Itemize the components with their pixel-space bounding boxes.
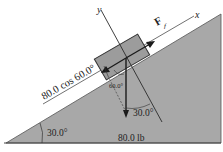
diagram-canvas: y x F f 80.0 cos 60.0° 60.0° 30.0° 30.0°… (0, 0, 223, 152)
angle-30-weight-label: 30.0° (133, 108, 154, 118)
friction-force-subscript: f (164, 22, 167, 30)
y-axis-label: y (96, 4, 102, 15)
x-axis-label: x (194, 9, 200, 20)
incline-angle-label: 30.0° (47, 128, 68, 138)
angle-60-label: 60.0° (109, 82, 123, 89)
friction-force-label: F (152, 14, 164, 28)
weight-label: 80.0 lb (118, 133, 145, 143)
